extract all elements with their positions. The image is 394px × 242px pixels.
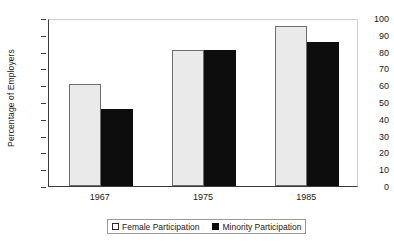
y-axis-tick-label: 60: [354, 80, 394, 92]
y-axis-title-label: Percentage of Employers: [6, 49, 16, 147]
plot-area: [48, 19, 358, 187]
x-axis-tick-label-1975: 1975: [173, 192, 233, 202]
bar-1985-minority: [307, 42, 339, 186]
y-axis-tick-label: 20: [354, 147, 394, 159]
y-axis-tickmark: [41, 103, 46, 104]
y-axis-tickmark: [41, 120, 46, 121]
y-axis-tickmark: [41, 36, 46, 37]
legend-item-label: Female Participation: [122, 222, 199, 232]
bar-1985-female: [275, 26, 307, 186]
legend-item-minority[interactable]: Minority Participation: [212, 222, 301, 232]
y-axis-tickmark: [41, 53, 46, 54]
y-axis-title: Percentage of Employers: [0, 0, 22, 196]
y-axis-tick-label: 80: [354, 47, 394, 59]
y-axis-tick-label: 90: [354, 30, 394, 42]
bar-1967-female: [69, 84, 101, 186]
y-axis-tickmark: [41, 187, 46, 188]
y-axis-tick-label: 70: [354, 63, 394, 75]
x-axis-tick-label-1967: 1967: [70, 192, 130, 202]
bar-1967-minority: [101, 109, 133, 186]
bar-1975-female: [172, 50, 204, 186]
y-axis-tickmark: [41, 170, 46, 171]
y-axis-tick-label: 10: [354, 164, 394, 176]
y-axis-tick-label: 0: [354, 181, 394, 193]
y-axis-tickmark: [41, 69, 46, 70]
legend-item-label: Minority Participation: [222, 222, 301, 232]
bar-1975-minority: [204, 50, 236, 186]
bar-chart-figure: Percentage of Employers 1009080706050403…: [0, 0, 394, 242]
y-axis-tickmark: [41, 137, 46, 138]
x-axis-tick-label-1985: 1985: [276, 192, 336, 202]
y-axis-tick-label: 40: [354, 114, 394, 126]
y-axis-tickmark: [41, 153, 46, 154]
filled-square-swatch: [212, 223, 219, 230]
y-axis-tick-label: 100: [354, 13, 394, 25]
open-square-swatch: [112, 223, 119, 230]
chart-legend: Female ParticipationMinority Participati…: [107, 219, 306, 234]
y-axis-tickmark: [41, 19, 46, 20]
y-axis-tickmark: [41, 86, 46, 87]
y-axis-tick-label: 30: [354, 131, 394, 143]
y-axis-tick-label: 50: [354, 97, 394, 109]
legend-item-female[interactable]: Female Participation: [112, 222, 199, 232]
